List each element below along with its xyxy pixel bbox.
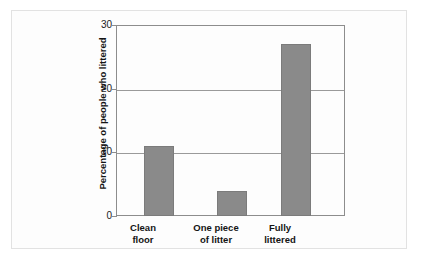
x-tick-label-line-2: of litter xyxy=(185,234,247,246)
y-tick-label-20: 20 xyxy=(90,84,112,94)
y-tick-label-10: 10 xyxy=(90,147,112,157)
y-tick-label-0: 0 xyxy=(90,211,112,221)
x-tick-label-line-1: Fully xyxy=(249,222,311,234)
figure: Percentage of people who littered 30 20 … xyxy=(0,0,422,265)
x-tick-label-line-2: littered xyxy=(249,234,311,246)
x-tick-label-fully-littered: Fully littered xyxy=(249,222,311,245)
bar-fully-littered[interactable] xyxy=(281,44,311,216)
y-tick-mark-0 xyxy=(112,216,117,217)
x-tick-label-line-2: floor xyxy=(112,234,174,246)
y-tick-label-30: 30 xyxy=(90,20,112,30)
bar-series xyxy=(116,25,345,216)
x-tick-label-clean-floor: Clean floor xyxy=(112,222,174,245)
bar-one-piece-of-litter[interactable] xyxy=(217,191,247,216)
x-tick-label-line-1: Clean xyxy=(112,222,174,234)
x-tick-label-one-piece-of-litter: One piece of litter xyxy=(185,222,247,245)
chart-canvas: Percentage of people who littered 30 20 … xyxy=(0,0,422,265)
y-axis-ticks: 30 20 10 0 xyxy=(90,0,112,265)
y-axis-label-holder: Percentage of people who littered xyxy=(84,0,85,265)
bar-clean-floor[interactable] xyxy=(144,146,174,216)
x-tick-label-line-1: One piece xyxy=(185,222,247,234)
